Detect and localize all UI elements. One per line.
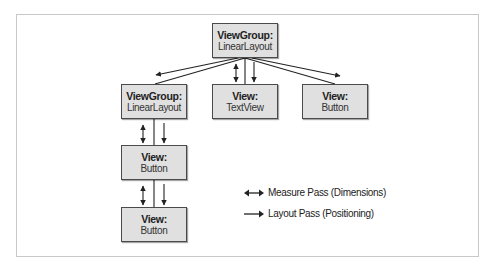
node-grandchild-button-1: View: Button (121, 145, 187, 180)
node-class: LinearLayout (218, 41, 272, 53)
edge-root-to-button (245, 58, 335, 84)
node-kind: View: (141, 213, 167, 225)
node-class: Button (140, 163, 167, 175)
node-class: Button (321, 102, 348, 114)
node-class: Button (140, 225, 167, 237)
node-kind: ViewGroup: (126, 90, 182, 102)
node-kind: ViewGroup: (217, 29, 273, 41)
legend-measure-pass: Measure Pass (Dimensions) (244, 187, 386, 198)
node-class: TextView (226, 102, 263, 114)
legend-label: Layout Pass (Positioning) (268, 208, 374, 219)
node-class: LinearLayout (127, 102, 181, 114)
node-child-linearlayout: ViewGroup: LinearLayout (121, 84, 187, 119)
legend-label: Measure Pass (Dimensions) (268, 187, 386, 198)
legend-layout-pass: Layout Pass (Positioning) (244, 208, 374, 219)
layout-arrow-root-to-linearlayout (156, 58, 238, 75)
node-kind: View: (232, 90, 258, 102)
edge-root-to-linearlayout (155, 58, 245, 84)
right-arrow-icon (244, 209, 264, 219)
node-kind: View: (322, 90, 348, 102)
double-arrow-icon (244, 188, 264, 198)
node-kind: View: (141, 151, 167, 163)
node-child-textview: View: TextView (212, 84, 278, 119)
node-child-button: View: Button (302, 84, 368, 119)
node-root-linearlayout: ViewGroup: LinearLayout (212, 23, 278, 58)
node-grandchild-button-2: View: Button (121, 207, 187, 242)
